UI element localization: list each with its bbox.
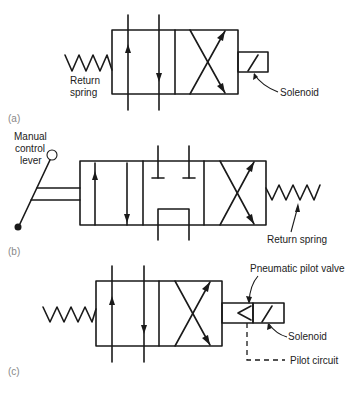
panel-c: Pneumatic pilot valve Solenoid Pilot cir… [8,263,345,377]
caption-b: (b) [8,246,20,257]
lever-knob [47,150,57,160]
label-manual-3: lever [20,155,42,166]
valve-diagram: Return spring Solenoid (a) [0,0,349,393]
panel-a: Return spring Solenoid (a) [8,15,319,124]
label-return-spring-b: Return spring [267,234,327,245]
caption-a: (a) [8,113,20,124]
label-solenoid-a: Solenoid [280,87,319,98]
return-spring-c [43,307,96,322]
label-manual-2: control [15,143,45,154]
return-spring-a [65,55,112,71]
label-pilot-circuit: Pilot circuit [290,355,339,366]
caption-c: (c) [8,366,20,377]
label-solenoid-c: Solenoid [288,331,327,342]
label-manual-1: Manual [14,131,47,142]
label-pilot-valve: Pneumatic pilot valve [250,263,345,274]
label-return-spring-a-2: spring [70,87,97,98]
panel-b: Manual control lever Return spring (b) [8,131,327,257]
return-spring-b [266,185,320,200]
pilot-circuit-line [247,323,285,360]
manual-lever [18,160,50,228]
lever-pivot [15,224,22,231]
label-return-spring-a-1: Return [70,75,100,86]
